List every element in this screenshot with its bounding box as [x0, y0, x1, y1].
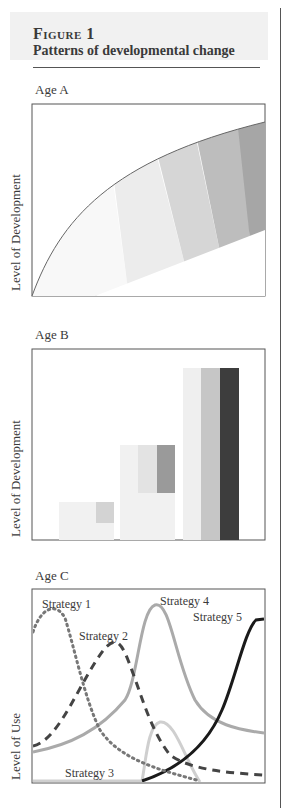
figure-graphics: Strategy 1 Strategy 2 Strategy 3 Strateg…	[0, 0, 290, 811]
label-strategy-2: Strategy 2	[79, 629, 128, 643]
bar-group-2-mid	[138, 445, 157, 493]
bar-group-3-light	[183, 368, 201, 540]
label-strategy-5: Strategy 5	[193, 610, 242, 624]
label-strategy-4: Strategy 4	[160, 594, 209, 608]
bar-group-3-dark	[220, 368, 239, 540]
chart-age-a	[32, 100, 270, 300]
bar-group-3-mid	[201, 368, 220, 540]
chart-age-b	[32, 349, 265, 540]
chart-age-c: Strategy 1 Strategy 2 Strategy 3 Strateg…	[32, 589, 265, 783]
bar-group-2-chip	[157, 445, 175, 493]
bar-group-1-chip	[96, 502, 114, 523]
label-strategy-1: Strategy 1	[42, 597, 91, 611]
label-strategy-3: Strategy 3	[65, 766, 114, 780]
